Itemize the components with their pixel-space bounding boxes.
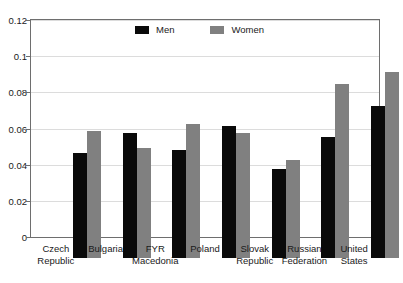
bar-women	[385, 72, 399, 258]
y-axis-tick-label: 0.02	[0, 197, 27, 207]
bar-group	[172, 40, 200, 258]
y-axis-tick-mark	[26, 20, 30, 21]
legend-item-men: Men	[135, 24, 174, 35]
legend-label-women: Women	[231, 24, 264, 35]
bar-series-container	[62, 40, 403, 258]
x-axis-tick-label: United States	[323, 243, 385, 266]
legend-swatch-women-icon	[210, 26, 224, 34]
legend: Men Women	[135, 24, 264, 35]
y-axis-tick-mark	[26, 237, 30, 238]
gridline	[31, 20, 379, 21]
legend-swatch-men-icon	[135, 26, 149, 34]
plot-area	[30, 19, 380, 238]
bar-group	[222, 40, 250, 258]
y-axis-tick-mark	[26, 56, 30, 57]
bar-women	[87, 131, 101, 258]
bar-men	[321, 137, 335, 258]
y-axis-tick-label: 0.12	[0, 16, 27, 26]
y-axis-tick-label: 0	[0, 233, 27, 243]
bar-women	[137, 148, 151, 258]
bar-men	[222, 126, 236, 258]
bar-group	[272, 40, 300, 258]
y-axis-tick-mark	[26, 165, 30, 166]
bar-group	[321, 40, 349, 258]
y-axis-tick-label: 0.06	[0, 125, 27, 135]
y-axis-tick-label: 0.04	[0, 161, 27, 171]
bar-men	[371, 106, 385, 258]
y-axis-tick-mark	[26, 129, 30, 130]
y-axis-tick-mark	[26, 201, 30, 202]
bar-group	[123, 40, 151, 258]
bar-women	[335, 84, 349, 258]
bar-women	[236, 133, 250, 258]
legend-label-men: Men	[156, 24, 174, 35]
bar-men	[172, 150, 186, 259]
bar-men	[123, 133, 137, 258]
bar-women	[186, 124, 200, 258]
legend-item-women: Women	[210, 24, 264, 35]
y-axis-tick-label: 0.1	[0, 52, 27, 62]
bar-group	[73, 40, 101, 258]
bar-group	[371, 40, 399, 258]
y-axis-tick-label: 0.08	[0, 88, 27, 98]
y-axis-tick-mark	[26, 92, 30, 93]
